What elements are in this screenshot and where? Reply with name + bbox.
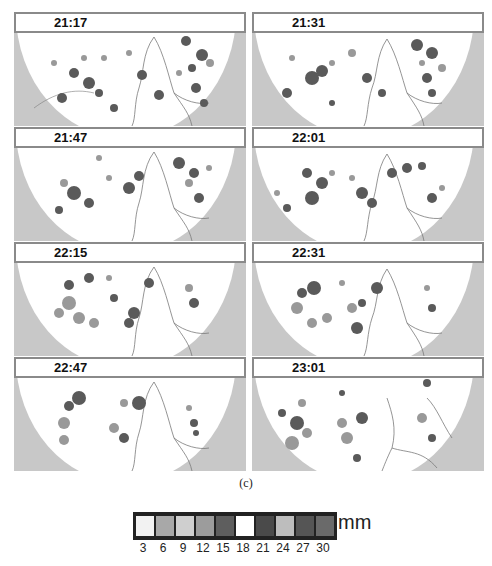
- time-label: 21:31: [292, 15, 325, 30]
- time-label-bar: 22:47: [14, 357, 246, 378]
- radar-panel: 22:15: [14, 242, 246, 356]
- radar-map-graphic: [14, 263, 246, 356]
- radar-map: [252, 33, 484, 126]
- radar-panel: 23:01: [252, 357, 484, 471]
- color-legend: [133, 512, 337, 540]
- radar-map-graphic: [252, 33, 484, 126]
- radar-panel: 22:47: [14, 357, 246, 471]
- radar-map-graphic: [252, 148, 484, 241]
- radar-map: [14, 378, 246, 471]
- legend-tick: 18: [233, 541, 253, 555]
- legend-swatch: [316, 516, 334, 536]
- time-label: 21:17: [54, 15, 87, 30]
- legend-ticks: 3 6 9 12 15 18 21 24 27 30: [133, 541, 333, 555]
- radar-panel: 21:17: [14, 12, 246, 126]
- time-label-bar: 22:31: [252, 242, 484, 263]
- legend-tick: 15: [213, 541, 233, 555]
- legend-tick: 24: [273, 541, 293, 555]
- time-label-bar: 21:31: [252, 12, 484, 33]
- legend-swatch: [216, 516, 234, 536]
- legend-tick: 12: [193, 541, 213, 555]
- legend-tick: 27: [293, 541, 313, 555]
- time-label-bar: 21:17: [14, 12, 246, 33]
- radar-map: [252, 148, 484, 241]
- time-label-bar: 22:15: [14, 242, 246, 263]
- legend-swatch: [296, 516, 314, 536]
- radar-panel: 21:31: [252, 12, 484, 126]
- time-label: 23:01: [292, 360, 325, 375]
- radar-map-graphic: [14, 148, 246, 241]
- legend-swatch: [156, 516, 174, 536]
- radar-map: [14, 33, 246, 126]
- legend-tick: 6: [153, 541, 173, 555]
- legend-swatch: [276, 516, 294, 536]
- legend-tick: 30: [313, 541, 333, 555]
- radar-map: [252, 263, 484, 356]
- time-label: 22:01: [292, 130, 325, 145]
- legend-tick: 3: [133, 541, 153, 555]
- legend-swatch: [136, 516, 154, 536]
- radar-panel: 22:01: [252, 127, 484, 241]
- radar-map-graphic: [14, 378, 246, 471]
- time-label: 22:47: [54, 360, 87, 375]
- time-label: 22:31: [292, 245, 325, 260]
- legend-tick: 21: [253, 541, 273, 555]
- radar-map-graphic: [252, 378, 484, 471]
- legend-swatch: [236, 516, 254, 536]
- legend-tick: 9: [173, 541, 193, 555]
- time-label-bar: 21:47: [14, 127, 246, 148]
- radar-panel: 21:47: [14, 127, 246, 241]
- legend-swatch: [256, 516, 274, 536]
- time-label: 22:15: [54, 245, 87, 260]
- radar-panel: 22:31: [252, 242, 484, 356]
- radar-map: [14, 263, 246, 356]
- legend-unit: mm: [338, 511, 371, 534]
- radar-map-graphic: [14, 33, 246, 126]
- legend-swatch: [196, 516, 214, 536]
- legend-swatch: [176, 516, 194, 536]
- radar-map: [252, 378, 484, 471]
- time-label: 21:47: [54, 130, 87, 145]
- radar-figure: 21:17: [0, 0, 492, 566]
- figure-caption: (c): [0, 476, 492, 491]
- radar-map: [14, 148, 246, 241]
- time-label-bar: 23:01: [252, 357, 484, 378]
- time-label-bar: 22:01: [252, 127, 484, 148]
- radar-map-graphic: [252, 263, 484, 356]
